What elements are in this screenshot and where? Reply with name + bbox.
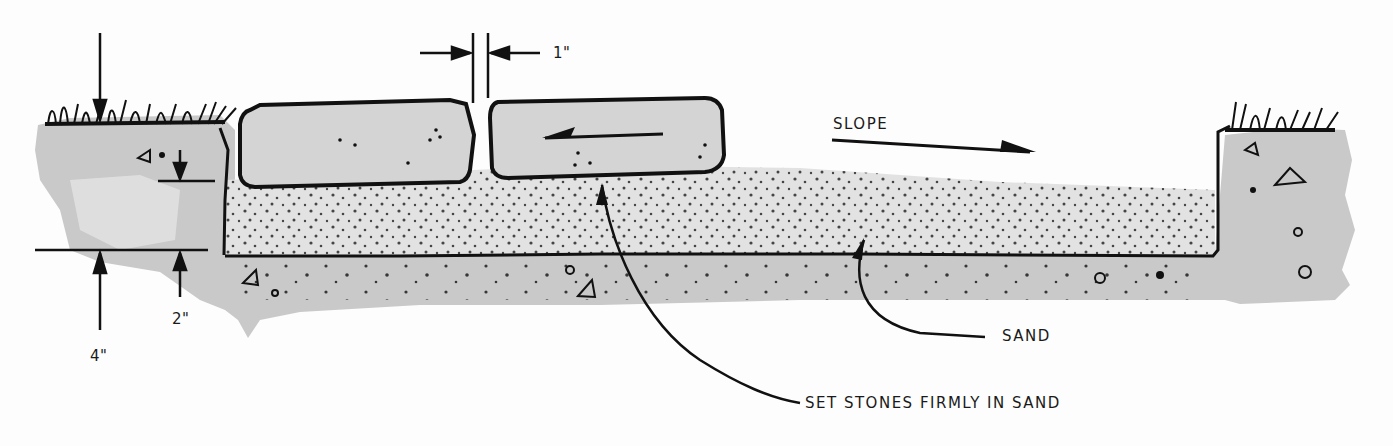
depth-total-label: 4" [90,347,107,365]
sand-label: SAND [1002,327,1051,345]
slope-label: SLOPE [833,115,888,133]
set-stones-label: SET STONES FIRMLY IN SAND [805,394,1061,412]
gap-label: 1" [553,44,570,62]
depth-sand-label: 2" [172,310,189,328]
stone-left [240,100,474,187]
grass-right [1225,102,1338,130]
grass-left [45,100,236,125]
path-cross-section-diagram [0,0,1393,446]
gap-dimension [420,33,540,103]
stone-right [490,98,724,178]
slope-arrow-icon [832,140,1036,152]
